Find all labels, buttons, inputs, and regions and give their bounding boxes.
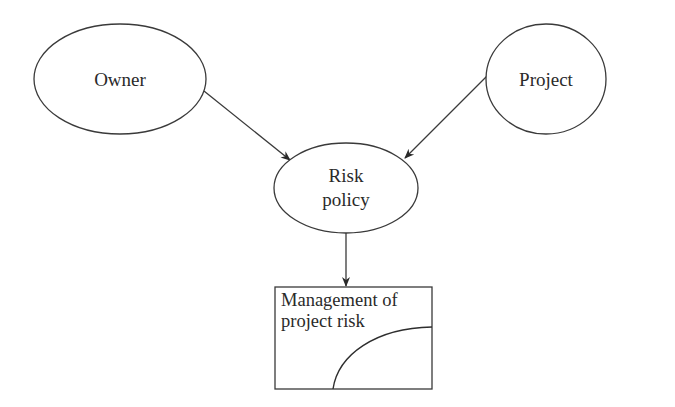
edge-owner-to-risk-policy <box>204 91 290 160</box>
node-management-of-project-risk[interactable]: Management of project risk <box>275 287 432 389</box>
node-owner[interactable]: Owner <box>34 24 206 134</box>
risk-policy-label-line1: Risk <box>329 165 364 186</box>
project-label: Project <box>519 69 574 90</box>
edge-project-to-risk-policy <box>405 76 487 158</box>
influence-diagram: Owner Project Risk policy Management of … <box>0 0 675 407</box>
node-risk-policy[interactable]: Risk policy <box>274 143 418 233</box>
management-label-line2: project risk <box>281 311 365 331</box>
owner-label: Owner <box>94 69 146 90</box>
risk-policy-ellipse <box>274 143 418 233</box>
risk-policy-label-line2: policy <box>322 189 370 210</box>
management-label-line1: Management of <box>281 290 398 310</box>
node-project[interactable]: Project <box>486 24 606 134</box>
